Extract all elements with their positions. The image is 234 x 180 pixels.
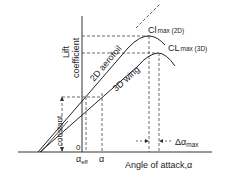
x-axis-label: Angle of attack,α [125, 160, 192, 170]
delta-arrow-left-icon [145, 139, 149, 143]
lift-curve-diagram: Lift coefficient 2D aerofoil 3D wing con… [0, 0, 234, 180]
y-axis-label-lift: Lift [61, 45, 71, 58]
label-alpha: α [99, 154, 104, 164]
label-cl-max-2d: Clmax (2D) [148, 25, 184, 35]
y-axis-label-coefficient: coefficient [71, 37, 81, 78]
delta-arrow-right-icon [159, 139, 163, 143]
label-cl-max-3d: CLmax (3D) [168, 43, 207, 53]
label-3d-wing: 3D wing [111, 64, 142, 93]
label-2d-aerofoil: 2D aerofoil [88, 44, 124, 84]
constant-arrow-down-icon [60, 147, 64, 152]
label-constant: constant [55, 115, 64, 146]
label-origin: 0 [76, 143, 81, 152]
label-delta-alpha-max: Δαmax [175, 137, 199, 148]
label-alpha-eff: αeff [76, 154, 88, 165]
